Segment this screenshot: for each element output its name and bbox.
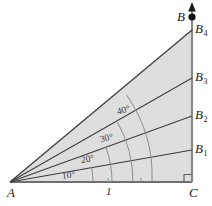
ray-endpoint-base-b1: B bbox=[195, 141, 203, 156]
vertex-label-a: A bbox=[7, 186, 15, 199]
ray-endpoint-sub-b2: 2 bbox=[203, 115, 207, 124]
ray-endpoint-label-b3: B3 bbox=[195, 70, 207, 83]
vertex-label-b: B bbox=[177, 10, 185, 23]
base-tick-label: 1 bbox=[106, 186, 112, 197]
ray-endpoint-sub-b3: 3 bbox=[203, 77, 207, 86]
ray-endpoint-label-b4: B4 bbox=[195, 22, 207, 35]
ray-endpoint-base-b2: B bbox=[195, 107, 203, 122]
ray-endpoint-sub-b1: 1 bbox=[203, 149, 207, 158]
ray-endpoint-base-b3: B bbox=[195, 69, 203, 84]
figure-canvas bbox=[0, 0, 212, 206]
ray-endpoint-label-b2: B2 bbox=[195, 108, 207, 121]
geometry-figure: A C B B4 B3 B2 B1 10° 20° 30° 40° 1 bbox=[0, 0, 212, 206]
up-arrow-icon bbox=[188, 2, 196, 12]
ray-endpoint-label-b1: B1 bbox=[195, 142, 207, 155]
angle-label-10: 10° bbox=[62, 170, 76, 181]
point-b-dot-icon bbox=[188, 13, 195, 20]
vertex-label-c: C bbox=[189, 186, 198, 199]
ray-endpoint-sub-b4: 4 bbox=[203, 29, 207, 38]
ray-endpoint-base-b4: B bbox=[195, 21, 203, 36]
